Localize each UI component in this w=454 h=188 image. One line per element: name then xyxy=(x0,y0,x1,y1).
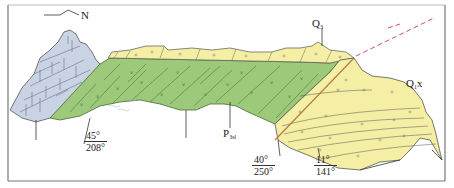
svg-text:v: v xyxy=(160,91,163,97)
attitude-3-dip: 11° xyxy=(314,154,337,166)
attitude-3-azimuth: 141° xyxy=(314,166,337,177)
attitude-2-dip: 40° xyxy=(252,154,275,166)
svg-text:v: v xyxy=(204,91,207,97)
svg-text:v: v xyxy=(240,69,243,75)
svg-text:v: v xyxy=(300,75,303,81)
attitude-2-azimuth: 250° xyxy=(252,166,275,177)
svg-text:v: v xyxy=(182,81,185,87)
svg-text:v: v xyxy=(96,93,99,99)
label-q3-sub: 3 xyxy=(320,24,323,30)
svg-text:v: v xyxy=(80,101,83,107)
label-q1x-suffix: x xyxy=(417,77,423,89)
svg-text:v: v xyxy=(116,85,119,91)
attitude-1-dip: 45° xyxy=(84,130,107,142)
label-q3: Q3 xyxy=(312,18,323,30)
label-p3sl: P3sl xyxy=(223,128,236,140)
svg-text:v: v xyxy=(140,79,143,85)
svg-text:v: v xyxy=(250,89,253,95)
svg-text:v: v xyxy=(270,79,273,85)
svg-text:v: v xyxy=(226,81,229,87)
section-graphic: vvv vvv vvv vvv vvv xyxy=(0,0,454,188)
svg-text:v: v xyxy=(130,69,133,75)
attitude-1: 45° 208° xyxy=(84,130,107,153)
svg-text:v: v xyxy=(288,93,291,99)
label-p3sl-sub: 3sl xyxy=(229,134,236,140)
attitude-1-azimuth: 208° xyxy=(84,142,107,153)
label-q1x: Q1x xyxy=(406,78,422,90)
label-q1x-main: Q xyxy=(406,77,414,89)
cross-section-diagram: vvv vvv vvv vvv vvv xyxy=(0,0,454,188)
label-q3-main: Q xyxy=(312,17,320,29)
attitude-3: 11° 141° xyxy=(314,154,337,177)
svg-text:v: v xyxy=(176,69,179,75)
north-arrow-icon xyxy=(44,10,79,15)
north-label: N xyxy=(81,10,89,21)
attitude-2: 40° 250° xyxy=(252,154,275,177)
fault-projection xyxy=(356,18,434,56)
